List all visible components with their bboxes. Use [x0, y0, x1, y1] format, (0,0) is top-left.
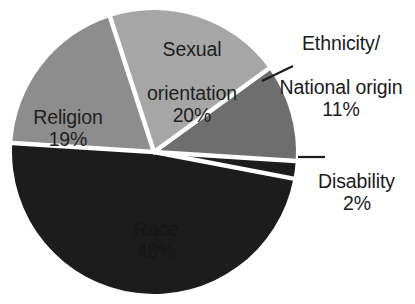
- slice-label-sexual-orientation-line1: Sexual: [162, 38, 221, 60]
- slice-label-religion: Religion 19%: [12, 84, 124, 172]
- slice-value-sexual-orientation: 20%: [130, 104, 254, 126]
- slice-label-sexual-orientation: Sexual orientation 20%: [130, 16, 254, 148]
- slice-label-sexual-orientation-line2: orientation: [147, 82, 237, 104]
- slice-label-disability-line1: Disability: [318, 170, 395, 192]
- slice-label-ethnicity-line2: National origin: [279, 76, 402, 98]
- slice-value-ethnicity: 11%: [268, 98, 414, 120]
- slice-value-religion: 19%: [12, 128, 124, 150]
- slice-label-race-line1: Race: [133, 218, 178, 240]
- slice-label-religion-line1: Religion: [33, 106, 103, 128]
- slice-label-disability: Disability 2%: [318, 148, 414, 236]
- slice-value-disability: 2%: [318, 192, 396, 214]
- slice-label-ethnicity: Ethnicity/ National origin 11%: [268, 10, 414, 142]
- slice-label-ethnicity-line1: Ethnicity/: [302, 32, 380, 54]
- slice-label-race: Race 48%: [104, 196, 208, 284]
- pie-chart: Sexual orientation 20% Ethnicity/ Nation…: [0, 0, 415, 304]
- slice-value-race: 48%: [104, 240, 208, 262]
